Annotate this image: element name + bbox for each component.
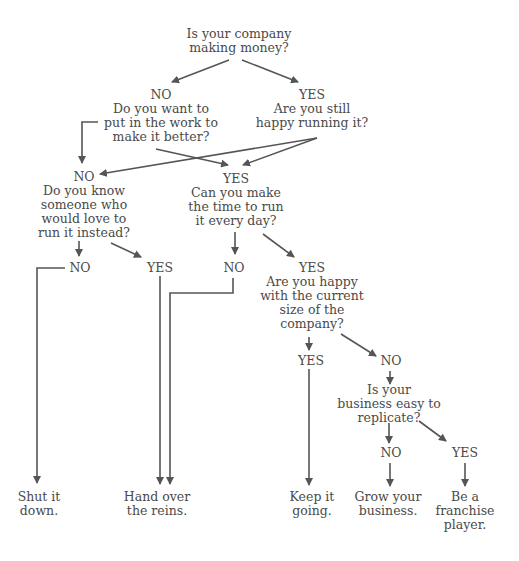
outcome-shut-it-down: Shut it down. (18, 490, 61, 518)
answer-yes-replicate: YES (452, 446, 478, 460)
answer-no-replicate: NO (380, 446, 401, 460)
outcome-grow-business: Grow your business. (355, 490, 422, 518)
answer-yes-happy-size: YES (298, 354, 324, 368)
branch-label: NO (104, 88, 218, 102)
branch-label: YES (260, 261, 364, 275)
question-make-time: YES Can you make the time to run it ever… (188, 172, 283, 228)
outcome-franchise-player: Be a franchise player. (436, 490, 495, 532)
question-easy-replicate: Is your business easy to replicate? (337, 383, 441, 425)
outcome-hand-over-reins: Hand over the reins. (124, 490, 190, 518)
question-know-someone: NO Do you know someone who would love to… (38, 170, 130, 240)
question-put-in-work: NO Do you want to put in the work to mak… (104, 88, 218, 144)
answer-no-make-time: NO (223, 261, 244, 275)
outcome-keep-it-going: Keep it going. (290, 490, 335, 518)
question-happy-size: YES Are you happy with the current size … (260, 261, 364, 331)
branch-label: YES (188, 172, 283, 186)
question-still-happy: YES Are you still happy running it? (256, 88, 368, 130)
branch-label: NO (38, 170, 130, 184)
answer-no-know-someone: NO (69, 261, 90, 275)
answer-no-happy-size: NO (380, 354, 401, 368)
branch-label: YES (256, 88, 368, 102)
answer-yes-know-someone: YES (147, 261, 173, 275)
question-making-money: Is your company making money? (187, 27, 292, 55)
